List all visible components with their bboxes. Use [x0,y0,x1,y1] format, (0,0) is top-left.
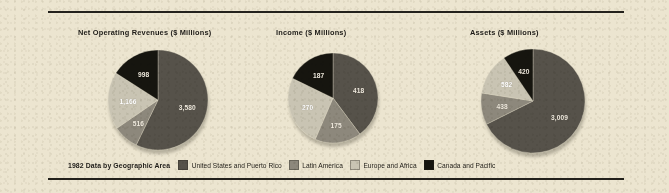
slice-value-label: 420 [518,68,529,75]
slice-value-label: 998 [138,70,149,77]
pie-chart-2: 418175270187 [284,49,384,151]
slice-value-label: 270 [302,104,313,111]
slice-value-label: 3,009 [551,114,568,121]
slice-value-label: 187 [313,72,324,79]
legend-swatch-icon [350,160,360,170]
legend-item-label: Canada and Pacific [437,162,495,169]
legend-title: 1982 Data by Geographic Area [68,162,170,169]
legend-item-label: Latin America [302,162,343,169]
chart-title-2: Income ($ Millions) [276,28,346,37]
pie-chart-1: 3,5805161,166998 [104,46,214,158]
legend-item-4[interactable]: Canada and Pacific [424,160,496,170]
legend-item-label: United States and Puerto Rico [192,162,282,169]
bottom-divider-rule [48,178,624,180]
chart-title-3: Assets ($ Millions) [470,28,539,37]
legend-item-label: Europe and Africa [363,162,416,169]
pie-slices-2 [284,49,384,151]
pie-chart-3: 3,009438582420 [477,45,591,161]
slice-value-label: 175 [330,121,341,128]
legend-item-1[interactable]: United States and Puerto Rico [178,160,282,170]
legend-item-3[interactable]: Europe and Africa [350,160,417,170]
slice-value-label: 582 [501,81,512,88]
slice-value-label: 438 [497,102,508,109]
slice-value-label: 418 [353,86,364,93]
pie-slices-3 [477,45,591,161]
legend-item-2[interactable]: Latin America [289,160,343,170]
slice-value-label: 516 [133,119,144,126]
chart-legend: 1982 Data by Geographic Area United Stat… [68,160,502,170]
chart-title-1: Net Operating Revenues ($ Millions) [78,28,212,37]
slice-value-label: 3,580 [179,103,196,110]
legend-swatch-icon [178,160,188,170]
legend-swatch-icon [289,160,299,170]
legend-items: United States and Puerto RicoLatin Ameri… [178,160,502,170]
slice-value-label: 1,166 [119,97,136,104]
chart-page: Net Operating Revenues ($ Millions)3,580… [0,0,669,193]
legend-swatch-icon [424,160,434,170]
top-divider-rule [48,11,624,13]
